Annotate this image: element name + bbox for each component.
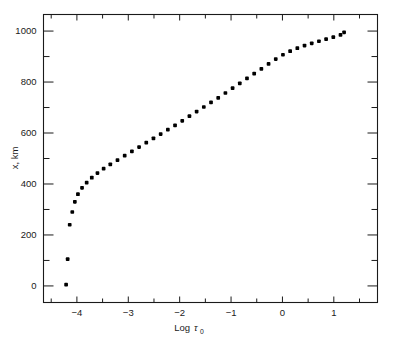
data-point <box>116 158 120 162</box>
data-point <box>144 141 148 145</box>
data-point <box>281 53 285 57</box>
data-point <box>76 192 80 196</box>
data-point <box>80 186 84 190</box>
data-point <box>339 33 343 37</box>
x-axis-label-word: Log <box>174 322 190 333</box>
data-point <box>166 128 170 132</box>
data-point <box>231 86 235 90</box>
data-point <box>64 283 68 287</box>
x-axis-label-subscript: 0 <box>200 328 204 335</box>
x-tick-label: 0 <box>280 307 285 318</box>
y-axis-label: x, km <box>9 147 20 170</box>
scatter-plot: −4−3−2−101 02004006008001000 x, km Log τ… <box>0 0 393 342</box>
data-point <box>238 81 242 85</box>
x-tick-label: −2 <box>174 307 185 318</box>
x-tick-label: −3 <box>123 307 134 318</box>
y-tick-label: 600 <box>21 127 37 138</box>
data-point <box>96 171 100 175</box>
y-tick-label: 800 <box>21 76 37 87</box>
x-tick-label: 1 <box>331 307 336 318</box>
data-point <box>68 223 72 227</box>
data-point <box>267 62 271 66</box>
data-point <box>66 257 70 261</box>
data-point <box>152 137 156 141</box>
data-point <box>180 119 184 123</box>
data-point <box>331 35 335 39</box>
data-point <box>317 39 321 43</box>
data-point <box>173 124 177 128</box>
data-point <box>85 181 89 185</box>
x-tick-label: −1 <box>226 307 237 318</box>
data-point <box>102 167 106 171</box>
chart-figure: −4−3−2−101 02004006008001000 x, km Log τ… <box>0 0 393 342</box>
data-point <box>90 176 94 180</box>
data-point <box>288 49 292 53</box>
data-point <box>209 101 213 105</box>
data-point <box>159 132 163 136</box>
data-point <box>195 110 199 114</box>
data-point <box>202 105 206 109</box>
y-tick-label: 0 <box>31 280 36 291</box>
y-tick-label: 1000 <box>15 25 36 36</box>
data-point <box>123 154 127 158</box>
data-point <box>137 145 141 149</box>
data-point <box>224 91 228 95</box>
y-tick-label: 400 <box>21 178 37 189</box>
data-point <box>295 46 299 50</box>
data-point <box>73 200 77 204</box>
data-point <box>303 44 307 48</box>
figure-background <box>0 0 393 342</box>
y-tick-label: 200 <box>21 229 37 240</box>
data-point <box>310 41 314 45</box>
data-point <box>342 30 346 34</box>
data-point <box>274 57 278 61</box>
data-point <box>216 96 220 100</box>
data-point <box>252 72 256 76</box>
data-point <box>245 77 249 81</box>
x-tick-label: −4 <box>71 307 82 318</box>
data-point <box>260 67 264 71</box>
data-point <box>70 210 74 214</box>
data-point <box>108 163 112 167</box>
data-point <box>324 37 328 41</box>
data-point <box>188 114 192 118</box>
data-point <box>130 150 134 154</box>
